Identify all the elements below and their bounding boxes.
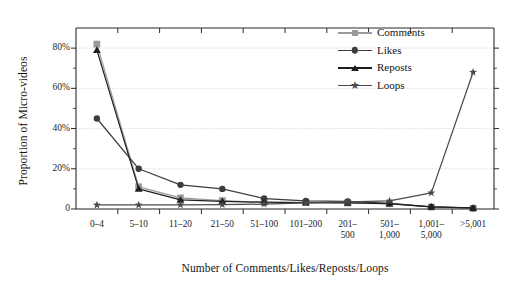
y-tick-label: 80% [53, 42, 70, 52]
x-tick-label: >5,001 [460, 219, 486, 230]
x-tick-label: 0–4 [90, 219, 104, 230]
legend-label: Loops [377, 77, 405, 95]
x-tick-label: 201–500 [338, 219, 357, 241]
chart-figure: Proportion of Micro-videos Number of Com… [0, 0, 518, 285]
x-tick-label: 101–200 [290, 219, 323, 230]
x-tick-label: 11–20 [169, 219, 192, 230]
legend-item-comments[interactable]: Comments [338, 24, 425, 42]
y-tick-label: 20% [53, 163, 70, 173]
legend-label: Likes [377, 42, 401, 60]
legend-swatch-star-icon: ★ [338, 79, 372, 91]
y-tick-label: 40% [53, 123, 70, 133]
legend-item-reposts[interactable]: Reposts [338, 59, 425, 77]
chart-legend: CommentsLikesReposts★Loops [338, 24, 425, 94]
legend-item-loops[interactable]: ★Loops [338, 77, 425, 95]
x-tick-label: 5–10 [129, 219, 148, 230]
x-tick-label: 51–100 [250, 219, 278, 230]
legend-label: Comments [377, 24, 425, 42]
plot-area [0, 0, 518, 285]
x-tick-label: 1,001–5,000 [419, 219, 445, 241]
y-tick-label: 0 [65, 203, 70, 213]
legend-label: Reposts [377, 59, 412, 77]
series-likes [94, 115, 477, 211]
legend-item-likes[interactable]: Likes [338, 42, 425, 60]
legend-swatch-circle-icon [338, 44, 372, 56]
legend-swatch-triangle-icon [338, 62, 372, 74]
legend-swatch-square-icon [338, 27, 372, 39]
y-tick-label: 60% [53, 82, 70, 92]
x-tick-label: 501–1,000 [379, 219, 400, 241]
x-tick-label: 21–50 [211, 219, 234, 230]
